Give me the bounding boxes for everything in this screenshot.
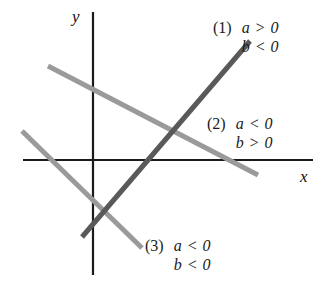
annotation-1-condition-b: b < 0 (242, 37, 279, 56)
annotation-2-index: (2) (207, 114, 226, 133)
annotation-3-index: (3) (145, 236, 164, 255)
annotation-2-condition-a: a < 0 (236, 114, 273, 133)
linear-functions-figure: y x (1) a > 0 b < 0 (2) a < 0 b > 0 (3) … (0, 0, 324, 289)
annotation-1-condition-a: a > 0 (242, 18, 279, 37)
annotation-3-condition-b: b < 0 (174, 255, 211, 274)
annotation-line-2: (2) a < 0 b > 0 (207, 114, 273, 152)
annotation-3-condition-a: a < 0 (174, 236, 211, 255)
annotation-2-condition-b: b > 0 (236, 133, 273, 152)
annotation-line-3: (3) a < 0 b < 0 (145, 236, 211, 274)
x-axis-label: x (300, 168, 308, 185)
annotation-1-conditions: a > 0 b < 0 (242, 18, 279, 56)
annotation-1-index: (1) (213, 18, 232, 37)
annotation-line-1: (1) a > 0 b < 0 (213, 18, 279, 56)
annotation-2-conditions: a < 0 b > 0 (236, 114, 273, 152)
annotation-3-conditions: a < 0 b < 0 (174, 236, 211, 274)
y-axis-label: y (72, 8, 80, 25)
